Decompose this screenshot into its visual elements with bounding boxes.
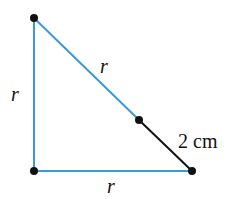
vertex-bottom-right <box>188 167 196 175</box>
right-triangle-diagram <box>0 0 231 199</box>
hypotenuse-r-segment <box>34 18 139 120</box>
vertex-top <box>30 14 38 22</box>
label-2cm: 2 cm <box>178 131 217 151</box>
label-left-r: r <box>11 84 19 104</box>
vertex-hypotenuse-point <box>135 116 143 124</box>
label-hypotenuse-r: r <box>100 56 108 76</box>
label-bottom-r: r <box>107 176 115 196</box>
vertex-bottom-left <box>30 167 38 175</box>
